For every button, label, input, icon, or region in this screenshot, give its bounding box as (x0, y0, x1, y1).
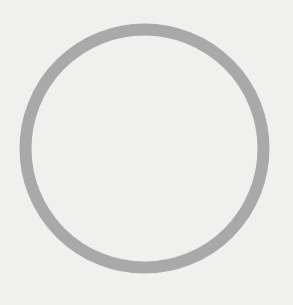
background (0, 0, 293, 305)
canvas (0, 0, 293, 305)
